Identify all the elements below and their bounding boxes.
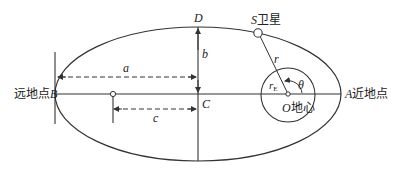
semi-minor-label: b [202, 48, 208, 60]
apogee-label: 远地点B [14, 88, 57, 100]
satellite-label: S卫星 [251, 14, 281, 26]
point-o-label: O [282, 101, 291, 115]
radius-label: r [274, 53, 279, 65]
earth-radius-label: rE [269, 80, 278, 93]
earth-center-point [286, 92, 290, 96]
point-d-label: D [194, 12, 203, 24]
point-b-label: B [50, 87, 57, 101]
perigee-label: A近地点 [345, 88, 388, 100]
semi-major-label: a [123, 62, 129, 74]
perigee-text: 近地点 [352, 87, 388, 101]
angle-theta-label: θ [298, 79, 304, 91]
point-c-label: C [202, 98, 210, 110]
earth-text: 地心 [291, 101, 315, 115]
focal-distance-label: c [153, 112, 158, 124]
earth-radius-subscript: E [273, 85, 277, 93]
orbit-diagram [0, 0, 397, 175]
empty-focus-point [110, 91, 115, 96]
apogee-text: 远地点 [14, 87, 50, 101]
satellite-point [254, 29, 262, 37]
satellite-text: 卫星 [257, 13, 281, 27]
earth-label: O地心 [282, 102, 315, 114]
